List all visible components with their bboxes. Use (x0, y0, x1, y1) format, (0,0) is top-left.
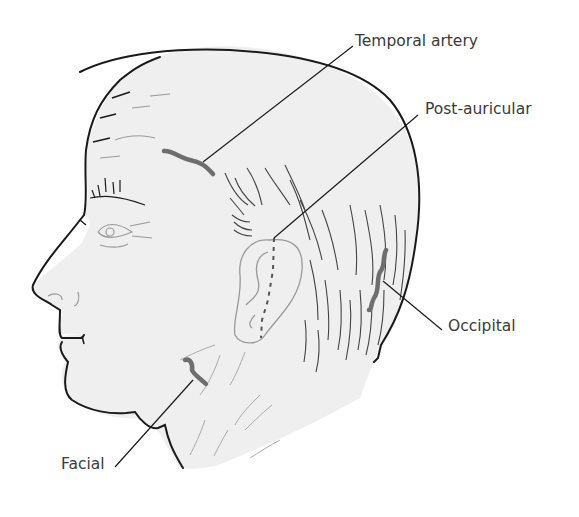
head-diagram: Temporal artery Post-auricular Occipital… (0, 0, 579, 517)
label-temporal-artery: Temporal artery (355, 32, 478, 50)
head-outline (32, 46, 419, 468)
head-illustration (0, 0, 579, 517)
label-facial: Facial (61, 455, 105, 473)
label-occipital: Occipital (448, 317, 516, 335)
label-post-auricular: Post-auricular (425, 100, 532, 118)
